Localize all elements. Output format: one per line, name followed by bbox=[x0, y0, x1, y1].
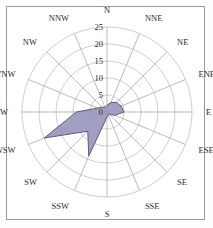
radial-tick-label: 25 bbox=[95, 22, 104, 32]
spoke-se bbox=[107, 112, 167, 172]
compass-label-wnw: WNW bbox=[0, 69, 16, 79]
compass-label-s: S bbox=[105, 209, 110, 219]
radial-tick-label: 20 bbox=[95, 39, 104, 49]
radial-tick-label: 0 bbox=[99, 107, 103, 117]
compass-label-n: N bbox=[104, 5, 110, 15]
compass-label-w: W bbox=[0, 107, 8, 117]
compass-label-nne: NNE bbox=[145, 13, 162, 23]
wind-rose-chart: 0510152025NNNENEENEEESESESSESSSWSWWSWWWN… bbox=[0, 0, 213, 228]
compass-label-e: E bbox=[206, 107, 211, 117]
compass-label-nnw: NNW bbox=[49, 13, 69, 23]
compass-label-sw: SW bbox=[24, 177, 37, 187]
compass-label-ene: ENE bbox=[198, 69, 213, 79]
compass-label-nw: NW bbox=[23, 37, 37, 47]
compass-label-ese: ESE bbox=[198, 145, 213, 155]
radial-tick-labels: 0510152025 bbox=[95, 22, 104, 117]
radial-tick-label: 15 bbox=[95, 56, 104, 66]
figure-canvas: 0510152025NNNENEENEEESESESSESSSWSWWSWWWN… bbox=[0, 0, 213, 228]
compass-label-ssw: SSW bbox=[52, 201, 69, 211]
radial-tick-label: 10 bbox=[95, 73, 104, 83]
compass-label-ne: NE bbox=[177, 37, 188, 47]
compass-label-se: SE bbox=[177, 177, 187, 187]
compass-label-wsw: WSW bbox=[0, 145, 16, 155]
radial-tick-label: 5 bbox=[99, 90, 103, 100]
compass-label-sse: SSE bbox=[145, 201, 160, 211]
